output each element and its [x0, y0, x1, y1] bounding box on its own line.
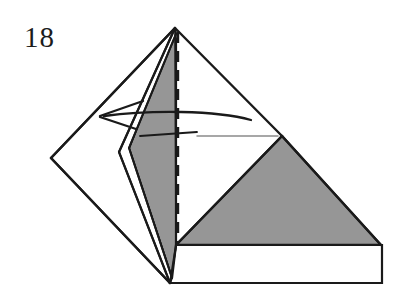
origami-figure: 18 Origami step 18 — fold flap to the le…	[0, 0, 413, 301]
edge-flap-center-boundary	[175, 29, 176, 245]
origami-diagram-svg: Origami step 18 — fold flap to the left	[0, 0, 413, 301]
white-base-rectangle-shape	[170, 245, 382, 283]
